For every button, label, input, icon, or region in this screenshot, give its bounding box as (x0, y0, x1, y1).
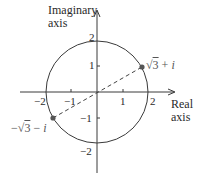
x-tick-label-neg2: −2 (34, 96, 46, 107)
sqrt-icon: √ (146, 58, 153, 72)
point-sqrt3-plus-i (139, 64, 144, 69)
y-tick-label-2: 2 (89, 32, 95, 43)
y-tick-label-neg2: −2 (80, 146, 92, 157)
real-axis-title-line2: axis (171, 111, 193, 124)
imaginary-axis-title: Imaginary axis (48, 4, 97, 30)
complex-plane-diagram: Imaginary axis Real axis −2 −1 1 2 2 1 −… (0, 0, 201, 179)
label-neg-sqrt3-minus-i: −√3 − i (11, 122, 47, 134)
x-tick-label-2: 2 (150, 96, 156, 107)
y-tick-label-1: 1 (89, 60, 95, 71)
label-sqrt3-plus-i: √3 + i (146, 59, 175, 71)
point-neg-sqrt3-minus-i (50, 115, 55, 120)
x-tick-label-1: 1 (120, 96, 126, 107)
imaginary-axis-title-line2: axis (48, 17, 97, 30)
real-axis-title: Real axis (171, 98, 193, 124)
complex-plane-graphic (0, 0, 201, 179)
y-tick-label-neg1: −1 (80, 113, 92, 124)
x-tick-label-neg1: −1 (64, 96, 76, 107)
